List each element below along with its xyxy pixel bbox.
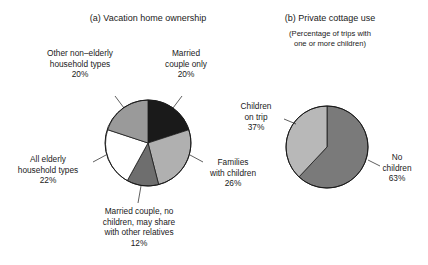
label-other-non-elderly: Other non–elderly household types 20% (28, 48, 132, 80)
label-families-with-children: Families with children 26% (196, 157, 270, 189)
label-married-couple-only: Married couple only 20% (150, 48, 222, 80)
leader-line-other-non-elderly (115, 96, 124, 108)
label-married-no-children: Married couple, no children, may share w… (74, 206, 204, 248)
leader-line-married-couple-only (173, 96, 182, 108)
leader-line-married-no-children (138, 186, 141, 203)
figure-container: (a) Vacation home ownership Other non–el… (0, 0, 428, 265)
panel-b-title: (b) Private cottage use (245, 13, 415, 24)
panel-b-subtitle: (Percentage of trips with one or more ch… (245, 29, 415, 48)
label-children-on-trip: Children on trip 37% (225, 101, 287, 133)
panel-a-title: (a) Vacation home ownership (38, 13, 258, 24)
label-no-children: No children 63% (371, 152, 423, 184)
label-all-elderly: All elderly household types 22% (0, 154, 96, 186)
